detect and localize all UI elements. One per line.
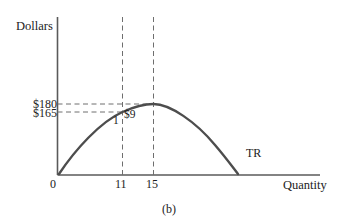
annotation-run-label: 1 [113, 115, 119, 127]
y-axis-label: Dollars [16, 20, 53, 33]
x-axis-label: Quantity [283, 179, 327, 192]
curve-label-tr: TR [246, 147, 261, 159]
total-revenue-curve [59, 104, 238, 174]
x-tick-label-11: 11 [115, 178, 127, 190]
annotation-rise-label: $9 [124, 109, 136, 121]
total-revenue-figure: Dollars Quantity $180 $165 0 11 15 1 $9 … [0, 0, 344, 224]
panel-caption: (b) [162, 203, 176, 215]
y-tick-label-165: $165 [33, 107, 57, 119]
x-tick-label-15: 15 [146, 178, 158, 190]
x-tick-label-0: 0 [50, 178, 56, 190]
